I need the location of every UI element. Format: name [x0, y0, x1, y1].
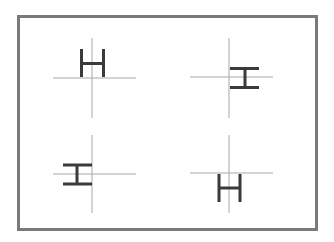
panel-bottom-right	[190, 135, 273, 213]
letter-h-rotated-glyph	[230, 69, 259, 88]
panel-top-right	[190, 38, 273, 118]
panel-bottom-left	[53, 135, 136, 213]
panel-top-left	[53, 38, 136, 118]
alignment-diagram	[0, 0, 334, 242]
